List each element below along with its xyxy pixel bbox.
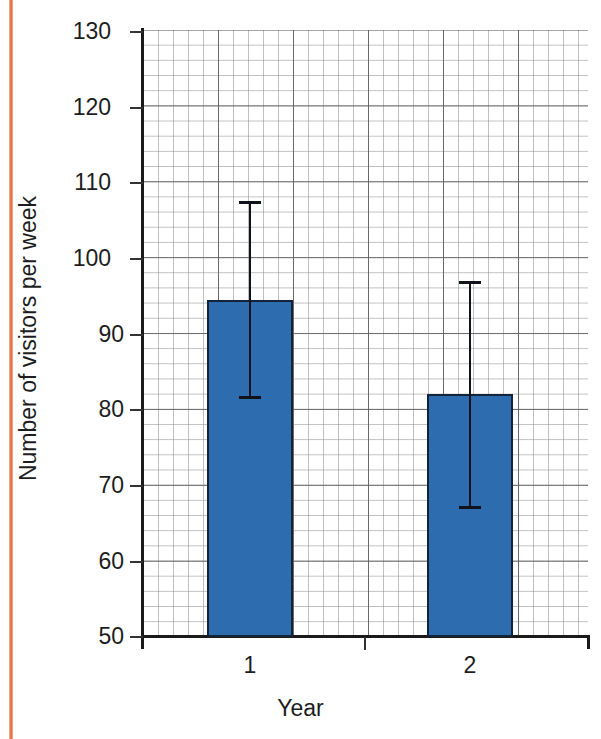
error-bar-cap-lower-year-1 xyxy=(239,396,261,399)
y-tick-80 xyxy=(130,409,143,411)
y-tick-label-120: 120 xyxy=(59,94,111,121)
y-axis-title: Number of visitors per week xyxy=(15,59,42,619)
y-tick-60 xyxy=(130,561,143,563)
y-tick-70 xyxy=(130,485,143,487)
page-margin-rule xyxy=(9,0,13,739)
y-tick-label-100: 100 xyxy=(59,245,111,272)
error-bar-cap-upper-year-2 xyxy=(459,281,481,284)
y-tick-label-110: 110 xyxy=(59,169,111,196)
y-tick-label-80: 80 xyxy=(72,396,124,423)
y-tick-100 xyxy=(130,258,143,260)
y-tick-label-60: 60 xyxy=(72,548,124,575)
error-bar-cap-upper-year-1 xyxy=(239,201,261,204)
x-axis-title: Year xyxy=(0,695,601,722)
x-tick-label-1: 1 xyxy=(220,652,280,679)
y-tick-label-50: 50 xyxy=(72,623,124,650)
x-axis-right-cap xyxy=(587,635,590,649)
figure-canvas: 50 60 70 80 90 100 110 120 130 1 2 Year … xyxy=(0,0,601,739)
y-tick-50 xyxy=(130,636,143,638)
error-bar-line-year-1 xyxy=(249,202,251,399)
y-tick-120 xyxy=(130,107,143,109)
y-tick-label-70: 70 xyxy=(72,472,124,499)
y-tick-label-130: 130 xyxy=(59,18,111,45)
x-tick-middle xyxy=(364,637,366,650)
x-tick-label-2: 2 xyxy=(440,652,500,679)
error-bar-cap-lower-year-2 xyxy=(459,506,481,509)
error-bar-line-year-2 xyxy=(469,282,471,509)
y-tick-130 xyxy=(130,31,143,33)
y-tick-110 xyxy=(130,182,143,184)
y-tick-label-90: 90 xyxy=(72,321,124,348)
y-tick-90 xyxy=(130,334,143,336)
